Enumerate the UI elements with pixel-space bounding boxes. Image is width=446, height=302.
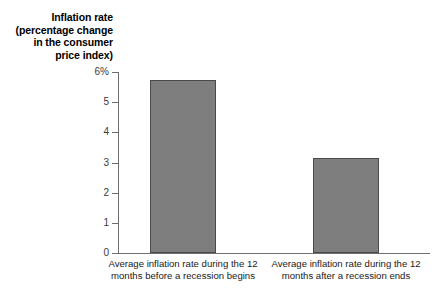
- y-axis-title-line-4: price index): [0, 49, 113, 62]
- y-tick-label-2: 2: [103, 188, 109, 198]
- y-tick-mark-3: [112, 163, 118, 164]
- bar-chart: Inflation rate (percentage change in the…: [0, 0, 446, 302]
- y-tick-mark-4: [112, 132, 118, 133]
- y-tick-mark-0: [112, 253, 118, 254]
- category-label-1-line-1: Average inflation rate during the 12: [246, 258, 446, 270]
- bar-1: [313, 158, 379, 253]
- plot-area: 0123456% Average inflation rate during t…: [118, 72, 430, 254]
- y-axis-title-line-1: Inflation rate: [0, 11, 113, 24]
- y-axis-title-line-3: in the consumer: [0, 36, 113, 49]
- y-tick-label-3: 3: [103, 158, 109, 168]
- category-label-1-line-2: months after a recession ends: [246, 270, 446, 282]
- bar-0: [150, 80, 216, 253]
- y-tick-label-5: 5: [103, 97, 109, 107]
- y-tick-label-4: 4: [103, 127, 109, 137]
- x-axis-line: [118, 253, 430, 254]
- y-tick-label-1: 1: [103, 218, 109, 228]
- y-tick-mark-6: [112, 72, 118, 73]
- y-tick-label-6: 6%: [95, 67, 109, 77]
- y-tick-mark-1: [112, 223, 118, 224]
- category-label-1: Average inflation rate during the 12 mon…: [246, 258, 446, 283]
- y-tick-label-0: 0: [103, 248, 109, 258]
- y-tick-mark-2: [112, 193, 118, 194]
- y-axis-title: Inflation rate (percentage change in the…: [0, 11, 113, 61]
- y-axis-title-line-2: (percentage change: [0, 24, 113, 37]
- y-axis-line: [118, 72, 119, 254]
- y-tick-mark-5: [112, 102, 118, 103]
